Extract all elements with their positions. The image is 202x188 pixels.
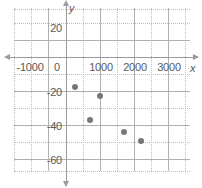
x-axis-arrow-left-icon (4, 54, 10, 60)
gridline-vertical (151, 8, 152, 171)
y-axis-arrow-up-icon (63, 0, 69, 6)
gridline-horizontal-major (14, 125, 190, 126)
x-axis-line (10, 57, 193, 58)
gridline-horizontal (14, 171, 190, 172)
scatter-plot-graph: -1000 0 1000 2000 3000 20 -20 -40 -60 x … (0, 0, 202, 188)
data-point (121, 129, 127, 135)
y-tick-label-minus-20: -20 (42, 86, 62, 98)
gridline-vertical-major (100, 8, 101, 171)
x-axis-label: x (190, 62, 196, 74)
gridline-horizontal (14, 142, 190, 143)
gridline-horizontal (14, 108, 190, 109)
data-point (72, 84, 78, 90)
x-tick-label-3000: 3000 (157, 61, 181, 73)
gridline-horizontal-major (14, 91, 190, 92)
gridline-horizontal-major (14, 40, 190, 41)
gridline-vertical-major (168, 8, 169, 171)
gridline-horizontal (14, 9, 190, 10)
x-tick-label-0: 0 (54, 61, 60, 73)
y-tick-label-minus-40: -40 (42, 120, 62, 132)
y-tick-label-20: 20 (46, 22, 62, 34)
y-axis-line (66, 6, 67, 181)
gridline-vertical (31, 8, 32, 171)
x-tick-label-2000: 2000 (123, 61, 147, 73)
x-axis-arrow-right-icon (193, 54, 199, 60)
data-point (87, 117, 93, 123)
gridline-vertical (117, 8, 118, 171)
x-tick-label-1000: 1000 (89, 61, 113, 73)
gridline-vertical (185, 8, 186, 171)
y-axis-arrow-down-icon (63, 181, 69, 187)
gridline-vertical-major (134, 8, 135, 171)
gridline-vertical (14, 8, 15, 171)
gridline-horizontal-major (14, 159, 190, 160)
data-point (97, 93, 103, 99)
y-tick-label-minus-60: -60 (42, 154, 62, 166)
y-axis-label: y (69, 2, 75, 14)
gridline-horizontal (14, 74, 190, 75)
gridline-vertical (83, 8, 84, 171)
gridline-horizontal (14, 23, 190, 24)
data-point (138, 138, 144, 144)
x-tick-label-minus-1000: -1000 (16, 61, 43, 73)
